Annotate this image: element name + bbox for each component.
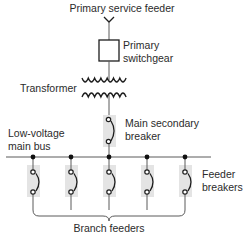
bus-junction-dot	[69, 155, 74, 160]
breaker-contact-icon	[183, 190, 187, 194]
branch-feeders-brace	[33, 210, 185, 221]
feeder-breakers-label-line2: breakers	[202, 181, 243, 193]
breaker-contact-icon	[31, 170, 35, 174]
transformer-icon	[82, 78, 126, 97]
feeder-breakers-label-line1: Feeder	[202, 168, 236, 180]
distribution-diagram: Primary service feeder Primary switchgea…	[0, 0, 244, 235]
incoming-feeder-arrow-icon	[104, 17, 114, 22]
low-voltage-bus-label-line2: main bus	[8, 140, 51, 152]
primary-switchgear-label-line1: Primary	[123, 39, 160, 51]
feeder-breaker-3	[103, 155, 116, 210]
bus-junction-dot	[31, 155, 36, 160]
main-secondary-breaker-icon	[103, 115, 116, 147]
feeder-breaker-2	[65, 155, 78, 210]
breaker-contact-icon	[183, 170, 187, 174]
primary-service-feeder-label: Primary service feeder	[69, 2, 175, 14]
breaker-contact-icon	[145, 190, 149, 194]
feeder-breakers-group	[27, 155, 192, 210]
primary-switchgear-box	[99, 40, 119, 61]
breaker-contact-icon	[69, 190, 73, 194]
feeder-breaker-4	[141, 155, 154, 210]
breaker-contact-icon	[69, 170, 73, 174]
transformer-label: Transformer	[20, 82, 77, 94]
low-voltage-bus-label-line1: Low-voltage	[8, 127, 65, 139]
main-secondary-breaker-label-line1: Main secondary	[125, 117, 200, 129]
breaker-contact-icon	[107, 190, 111, 194]
bus-junction-dot	[107, 155, 112, 160]
primary-switchgear-label-line2: switchgear	[123, 52, 174, 64]
bus-junction-dot	[145, 155, 150, 160]
feeder-breaker-5	[179, 155, 192, 210]
breaker-contact-icon	[31, 190, 35, 194]
breaker-contact-icon	[107, 170, 111, 174]
feeder-breaker-1	[27, 155, 40, 210]
bus-junction-dot	[183, 155, 188, 160]
branch-feeders-label: Branch feeders	[73, 222, 144, 234]
main-secondary-breaker-label-line2: breaker	[125, 130, 161, 142]
breaker-contact-icon	[145, 170, 149, 174]
